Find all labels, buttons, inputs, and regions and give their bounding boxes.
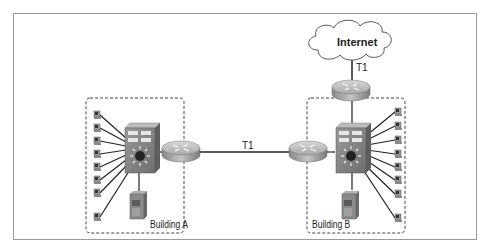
building-b-router — [289, 141, 327, 162]
building-a-switch — [125, 123, 160, 173]
building-a-workstations — [94, 111, 101, 221]
building-b-label: Building B — [312, 219, 350, 230]
building-b-server — [342, 191, 359, 219]
internet-router — [332, 80, 370, 101]
network-diagram — [0, 0, 489, 250]
internet-link-label: T1 — [356, 62, 368, 73]
building-a-server — [130, 191, 147, 219]
building-a-label: Building A — [150, 219, 188, 230]
building-b-workstations — [395, 108, 402, 222]
wan-link-label: T1 — [242, 140, 254, 151]
building-a-router — [162, 141, 200, 162]
internet-label: Internet — [337, 36, 377, 48]
building-b-switch — [336, 123, 371, 173]
